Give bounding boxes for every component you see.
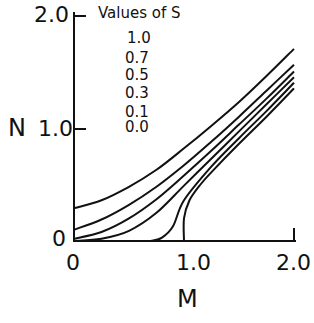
legend-item-1: 1.0 (127, 29, 151, 47)
y-axis-title: N (8, 114, 26, 142)
y-tick-label-1: 1.0 (38, 116, 73, 141)
x-tick-label-0: 0 (66, 250, 80, 275)
legend-item-2: 0.7 (125, 49, 149, 67)
curves (74, 49, 294, 241)
legend-item-3: 0.5 (125, 66, 149, 84)
legend-item-4: 0.3 (125, 84, 149, 102)
y-tick-label-0: 0 (52, 226, 66, 251)
x-tick-label-1: 1.0 (176, 250, 211, 275)
y-tick-label-2: 2.0 (34, 2, 69, 27)
chart-canvas (0, 0, 314, 323)
legend-title: Values of S (98, 4, 181, 22)
x-tick-label-2: 2.0 (276, 250, 311, 275)
curve-s-0-0 (184, 88, 294, 241)
x-axis-title: M (177, 285, 198, 313)
legend-item-6: 0.0 (125, 118, 149, 136)
